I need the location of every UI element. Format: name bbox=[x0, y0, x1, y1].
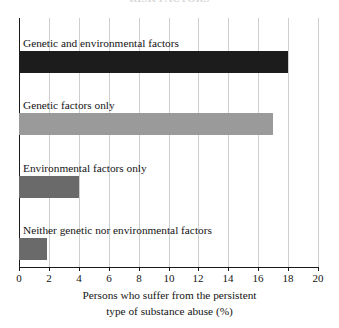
x-tick-label: 6 bbox=[96, 272, 122, 285]
bar-group: Neither genetic nor environmental factor… bbox=[19, 238, 318, 260]
bar-category-label: Environmental factors only bbox=[23, 162, 147, 174]
x-tick-mark bbox=[139, 267, 140, 271]
x-tick-mark bbox=[318, 267, 319, 271]
bar bbox=[19, 238, 47, 260]
x-tick-mark bbox=[169, 267, 170, 271]
x-axis-title: Persons who suffer from the persistentty… bbox=[0, 288, 339, 319]
x-tick-mark bbox=[288, 267, 289, 271]
x-tick-mark bbox=[258, 267, 259, 271]
x-axis-title-line: Persons who suffer from the persistent bbox=[0, 288, 339, 304]
x-tick-label: 16 bbox=[245, 272, 271, 285]
bar-group: Environmental factors only bbox=[19, 176, 318, 198]
x-tick-label: 2 bbox=[36, 272, 62, 285]
x-tick-mark bbox=[49, 267, 50, 271]
bar bbox=[19, 51, 288, 73]
bar-category-label: Genetic factors only bbox=[23, 99, 115, 111]
plot-area: Genetic and environmental factorsGenetic… bbox=[19, 18, 318, 267]
x-tick-label: 10 bbox=[156, 272, 182, 285]
x-tick-label: 8 bbox=[126, 272, 152, 285]
x-tick-mark bbox=[198, 267, 199, 271]
bar bbox=[19, 113, 273, 135]
bar-group: Genetic and environmental factors bbox=[19, 51, 318, 73]
x-tick-label: 0 bbox=[6, 272, 32, 285]
bar-chart-figure: RISK FACTORS Genetic and environmental f… bbox=[0, 0, 339, 328]
x-axis-title-line: type of substance abuse (%) bbox=[0, 304, 339, 320]
bar-series: Genetic and environmental factorsGenetic… bbox=[19, 18, 318, 267]
x-tick-mark bbox=[19, 267, 20, 271]
x-tick-label: 12 bbox=[185, 272, 211, 285]
x-tick-label: 20 bbox=[305, 272, 331, 285]
x-tick-label: 18 bbox=[275, 272, 301, 285]
x-tick-label: 4 bbox=[66, 272, 92, 285]
bar bbox=[19, 176, 79, 198]
x-tick-mark bbox=[79, 267, 80, 271]
x-tick-label: 14 bbox=[215, 272, 241, 285]
x-tick-mark bbox=[109, 267, 110, 271]
bar-category-label: Genetic and environmental factors bbox=[23, 37, 179, 49]
chart-title: RISK FACTORS bbox=[0, 0, 339, 4]
bar-group: Genetic factors only bbox=[19, 113, 318, 135]
gridline bbox=[318, 18, 319, 267]
bar-category-label: Neither genetic nor environmental factor… bbox=[23, 224, 212, 236]
x-tick-mark bbox=[228, 267, 229, 271]
